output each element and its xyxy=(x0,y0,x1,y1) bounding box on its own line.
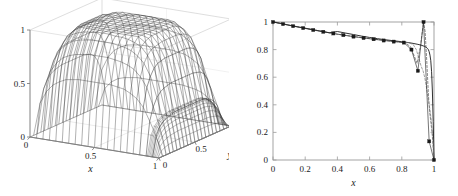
line-plot-series xyxy=(271,20,435,161)
svg-text:0.8: 0.8 xyxy=(257,45,269,55)
svg-text:0: 0 xyxy=(24,140,29,150)
svg-text:x: x xyxy=(350,177,356,188)
svg-text:0.4: 0.4 xyxy=(257,100,269,110)
svg-text:1: 1 xyxy=(264,17,269,27)
svg-text:0: 0 xyxy=(264,155,269,165)
svg-text:0.6: 0.6 xyxy=(364,164,376,174)
svg-text:0.5: 0.5 xyxy=(14,79,26,89)
svg-text:0: 0 xyxy=(271,164,276,174)
svg-text:1: 1 xyxy=(21,25,26,35)
line-plot-panel: 00.20.40.60.8100.20.40.60.81x xyxy=(229,0,458,196)
svg-text:0.5: 0.5 xyxy=(195,144,207,154)
svg-text:0.2: 0.2 xyxy=(300,164,311,174)
surface-axes xyxy=(27,30,229,161)
svg-text:0.2: 0.2 xyxy=(257,127,268,137)
svg-text:1: 1 xyxy=(153,161,158,171)
figure-container: 00.5100.5100.51xy 00.20.40.60.8100.20.40… xyxy=(0,0,458,196)
line-plot-svg: 00.20.40.60.8100.20.40.60.81x xyxy=(229,0,458,196)
svg-text:1: 1 xyxy=(432,164,437,174)
surface-plot-svg: 00.5100.5100.51xy xyxy=(0,0,229,196)
svg-text:0.4: 0.4 xyxy=(332,164,344,174)
svg-text:0.8: 0.8 xyxy=(396,164,408,174)
svg-text:0.5: 0.5 xyxy=(85,151,97,161)
svg-text:0.6: 0.6 xyxy=(257,72,269,82)
svg-text:x: x xyxy=(87,163,93,174)
svg-text:0: 0 xyxy=(163,160,168,170)
surface-plot-panel: 00.5100.5100.51xy xyxy=(0,0,229,196)
surface-mesh xyxy=(30,12,229,158)
